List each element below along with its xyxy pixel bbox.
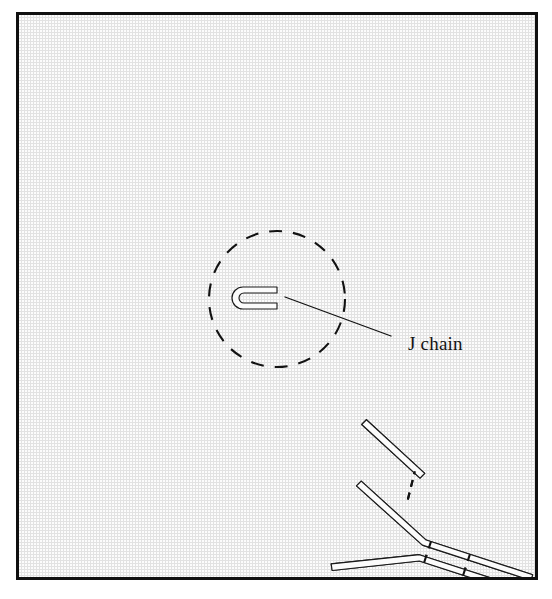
monomer-lower-left (297, 419, 535, 577)
j-chain-hairpin (232, 287, 277, 309)
caption-sliver (18, 586, 538, 599)
monomer-upper-left (297, 419, 535, 577)
monomer-top (508, 419, 535, 577)
figure-page: J chain (0, 0, 552, 599)
monomer-group (297, 419, 535, 577)
j-chain-label: J chain (408, 334, 463, 354)
central-disulfide-ring (209, 231, 345, 367)
igm-pentamer-diagram (19, 15, 535, 577)
figure-frame: J chain (16, 12, 538, 580)
